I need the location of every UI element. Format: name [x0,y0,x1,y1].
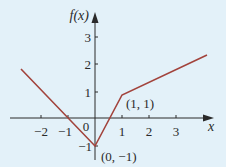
point-label-1-1: (1, 1) [126,96,154,111]
graph-canvas: −2 −1 1 2 3 0 3 2 1 −1 f(x) x (1, 1) (0,… [0,0,226,167]
function-graph: −2 −1 1 2 3 0 3 2 1 −1 f(x) x (1, 1) (0,… [0,0,226,167]
point-label-0-neg1: (0, −1) [101,149,137,164]
x-tick-label: 2 [146,124,153,139]
x-tick-label: 3 [173,124,180,139]
y-tick-label: 2 [85,57,92,72]
x-axis-label: x [207,119,215,134]
y-axis-label: f(x) [70,8,90,24]
x-tick-label: 1 [119,124,126,139]
x-tick-label: −2 [34,124,48,139]
x-tick-label: −1 [58,124,72,139]
y-tick-label: 1 [85,85,92,100]
origin-label: 0 [83,119,90,134]
y-axis-arrow-icon [92,12,99,23]
y-tick-label: 3 [85,30,92,45]
